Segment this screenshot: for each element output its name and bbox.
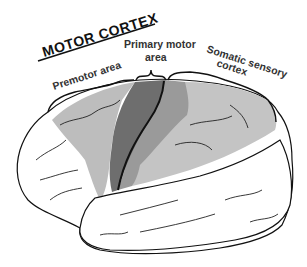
- primary-motor-bracket: [136, 70, 166, 80]
- brain-illustration: MOTOR CORTEX: [0, 0, 307, 267]
- title-group: MOTOR CORTEX: [38, 9, 160, 61]
- motor-cortex-diagram: MOTOR CORTEX: [0, 0, 307, 267]
- primary-motor-label-line1: Primary motor: [124, 38, 196, 50]
- primary-motor-label-line2: area: [145, 51, 167, 63]
- diagram-title: MOTOR CORTEX: [40, 9, 160, 59]
